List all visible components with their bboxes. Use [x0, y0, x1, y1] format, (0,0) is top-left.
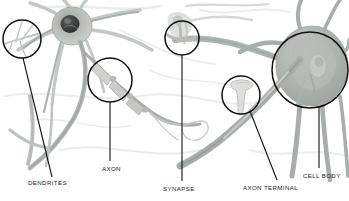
- label-dendrites: DENDRITES: [28, 180, 67, 186]
- neuron-diagram-page: DENDRITES AXON SYNAPSE AXON TERMINAL CEL…: [0, 0, 349, 201]
- leader-line-axon-terminal: [250, 111, 277, 180]
- myelinated-axon: [84, 52, 200, 125]
- label-axon-terminal: AXON TERMINAL: [243, 185, 298, 191]
- label-synapse: SYNAPSE: [163, 186, 195, 192]
- synapse-junction: [166, 12, 196, 44]
- label-axon: AXON: [102, 166, 121, 172]
- neuron-illustration: [0, 0, 349, 201]
- myelin-segments: [91, 62, 148, 115]
- axon-terminal-bouton: [231, 80, 253, 115]
- label-cell-body: CELL BODY: [303, 173, 341, 179]
- dendrite-detail: [4, 22, 44, 58]
- leader-lines: [23, 55, 319, 181]
- nucleolus: [64, 18, 70, 24]
- nucleus: [61, 15, 80, 33]
